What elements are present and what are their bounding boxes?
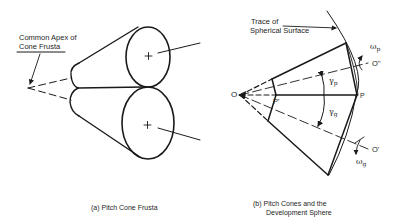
apex-O-marker: [238, 91, 246, 99]
label-O: O: [231, 90, 237, 99]
label-O-prime: O': [372, 145, 379, 154]
gamma-g-subscript: g: [334, 110, 338, 117]
omega-g-subscript: g: [363, 160, 367, 167]
apex-line-upper: [28, 78, 71, 88]
caption-b-line2: Development Sphere: [266, 208, 332, 217]
lower-cone-small-end: [70, 88, 79, 116]
label-gamma-p: γp: [329, 76, 338, 87]
label-O-double-prime: O'': [372, 59, 381, 68]
label-gamma-g: γg: [329, 107, 338, 118]
gear-axis-O-prime: [240, 95, 368, 149]
cone-contact-line: [78, 87, 144, 88]
figure-b-pitch-cones-development-sphere: [238, 11, 368, 175]
gamma-g-arc: [318, 95, 324, 126]
omega-p-rotation-arrow: [359, 56, 362, 70]
label-P-prime: P': [273, 97, 279, 106]
apex-line-lower: [28, 88, 71, 100]
gear-cone-outer-edge: [268, 121, 328, 175]
pinion-cone-outer-edge: [272, 43, 346, 79]
callout-leader-arrow: [30, 54, 40, 84]
upper-cone-small-end: [71, 63, 79, 88]
callout-trace-line1: Trace of: [251, 17, 278, 26]
spherical-surface-trace: [327, 11, 359, 175]
dashed-O-to-gear-edge: [240, 95, 268, 121]
callout-trace-line2: Spherical Surface: [250, 26, 309, 35]
gamma-p-subscript: p: [334, 79, 338, 86]
label-omega-g: ωg: [356, 157, 366, 168]
pinion-cone-back: [346, 43, 357, 95]
omega-p-subscript: p: [377, 45, 381, 52]
label-P: P: [360, 91, 365, 100]
upper-cone-base-circle: [126, 27, 170, 87]
lower-cone-axis: [158, 128, 200, 140]
upper-cone-axis: [158, 43, 200, 53]
callout-common-apex-line1: Common Apex of: [19, 33, 77, 42]
lower-cone-base-circle: [122, 87, 174, 159]
upper-cone-top-edge: [79, 27, 138, 63]
caption-b-line1: (b) Pitch Cones and the: [253, 199, 327, 208]
label-omega-p: ωp: [370, 42, 380, 53]
pinion-axis-O-double-prime: [240, 63, 368, 95]
caption-a: (a) Pitch Cone Frusta: [91, 203, 158, 212]
callout-common-apex-line2: Cone Frusta: [19, 42, 60, 51]
gamma-p-arc: [322, 76, 324, 95]
